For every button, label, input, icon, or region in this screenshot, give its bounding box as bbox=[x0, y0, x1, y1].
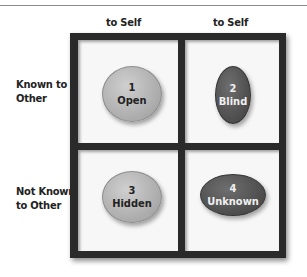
row-header-known: Known to Other bbox=[16, 78, 67, 106]
row-header-not-known: Not Known to Other bbox=[16, 185, 75, 213]
column-header-2: to Self bbox=[213, 16, 248, 29]
quadrant-open: 1 Open bbox=[78, 40, 178, 143]
row-header-not-known-line1: Not Known bbox=[16, 185, 75, 199]
quadrant-number: 3 bbox=[129, 184, 136, 197]
oval-open: 1 Open bbox=[102, 66, 162, 122]
quadrant-name: Hidden bbox=[112, 197, 152, 210]
quadrant-hidden: 3 Hidden bbox=[78, 150, 178, 251]
quadrant-name: Blind bbox=[219, 95, 247, 108]
oval-hidden: 3 Hidden bbox=[102, 171, 162, 223]
quadrant-blind: 2 Blind bbox=[185, 40, 279, 143]
quadrant-number: 4 bbox=[230, 182, 237, 195]
row-header-not-known-line2: to Other bbox=[16, 199, 75, 213]
quadrant-number: 2 bbox=[230, 82, 237, 95]
column-header-1: to Self bbox=[106, 16, 141, 29]
quadrant-number: 1 bbox=[129, 81, 136, 94]
quadrant-unknown: 4 Unknown bbox=[185, 150, 279, 251]
quadrant-name: Unknown bbox=[207, 195, 259, 208]
johari-window-frame: 1 Open 2 Blind 3 Hidden 4 Unknown bbox=[70, 33, 286, 258]
row-header-known-line1: Known to bbox=[16, 78, 67, 92]
oval-unknown: 4 Unknown bbox=[200, 174, 266, 216]
top-rule bbox=[0, 5, 307, 6]
oval-blind: 2 Blind bbox=[215, 66, 251, 124]
row-header-known-line2: Other bbox=[16, 92, 67, 106]
quadrant-name: Open bbox=[117, 94, 146, 107]
